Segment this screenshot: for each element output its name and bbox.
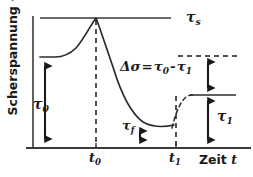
label-tau-f-base: τ (122, 118, 131, 133)
x-axis-title: Zeit t (199, 152, 237, 167)
label-tau-0: τ0 (33, 96, 49, 112)
label-tau-s: τs (186, 9, 201, 25)
y-axis-title: Scherspannung τ (5, 6, 20, 116)
y-axis-symbol: τ (8, 0, 19, 2)
label-tau-1-base: τ (217, 108, 226, 124)
shear-stress-time-diagram: Scherspannung τ Zeit t τs τ0 τf τ1 t0 t1… (0, 0, 253, 177)
label-tau-1-subscript: 1 (226, 115, 232, 126)
label-tau-s-subscript: s (195, 16, 200, 27)
equation-term2-subscript: 1 (186, 66, 192, 76)
label-t-1: t1 (169, 150, 181, 165)
label-tau-0-base: τ (33, 96, 42, 112)
x-axis-symbol: t (231, 152, 237, 167)
equation-minus: - (169, 58, 177, 74)
y-axis-title-text: Scherspannung (5, 6, 20, 115)
label-tau-1: τ1 (217, 108, 233, 124)
label-t-0-subscript: 0 (95, 157, 101, 167)
equation-term1: τ (154, 58, 163, 74)
delta-sigma-equation: Δσ=τ0-τ1 (120, 58, 192, 74)
equation-term1-subscript: 0 (163, 66, 169, 76)
label-t-1-subscript: 1 (175, 157, 181, 167)
x-axis-title-text: Zeit (199, 152, 227, 167)
diagram-canvas (0, 0, 253, 177)
label-tau-f: τf (122, 118, 134, 133)
equation-delta: Δσ (120, 58, 140, 74)
label-tau-s-base: τ (186, 9, 195, 25)
label-tau-f-subscript: f (131, 125, 135, 135)
equation-term2: τ (177, 58, 186, 74)
label-tau-0-subscript: 0 (42, 103, 48, 114)
label-t-0: t0 (89, 150, 101, 165)
equation-equals: = (140, 58, 153, 74)
